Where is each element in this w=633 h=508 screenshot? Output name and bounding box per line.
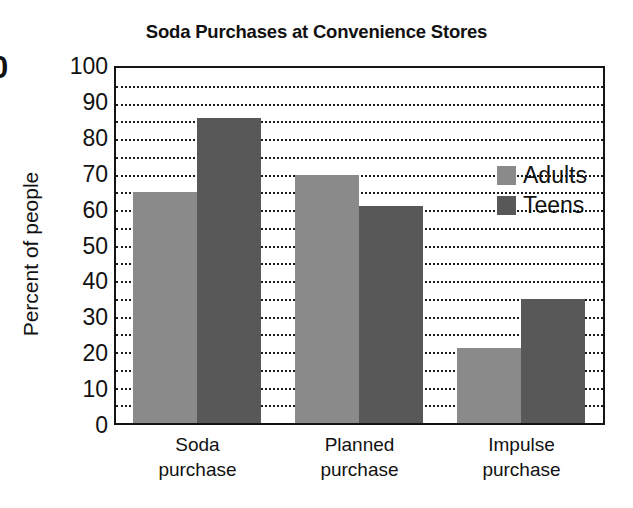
y-axis-tick-label: 40 [46, 270, 108, 293]
plot-area: AdultsTeens [114, 66, 605, 425]
y-axis-tick-label: 80 [46, 126, 108, 149]
legend-item-adults: Adults [497, 160, 605, 190]
x-axis-category-labels: SodapurchasePlannedpurchaseImpulsepurcha… [114, 432, 605, 492]
legend-swatch-icon [497, 166, 516, 185]
y-axis-tick-label: 100 [46, 55, 108, 78]
y-axis-tick-label: 10 [46, 378, 108, 401]
y-axis-tick-label: 20 [46, 342, 108, 365]
gridline [116, 86, 603, 88]
bar-teens-soda-purchase [197, 118, 261, 423]
legend-label: Adults [523, 164, 587, 187]
y-axis-tick-label: 70 [46, 162, 108, 185]
legend-item-teens: Teens [497, 190, 605, 220]
x-axis-category-label-line: Soda [117, 432, 279, 457]
bar-adults-planned-purchase [295, 175, 359, 424]
x-axis-category-label: Impulsepurchase [441, 432, 603, 482]
y-axis-tick-labels: 1009080706050403020100 [46, 66, 108, 425]
x-axis-category-label-line: purchase [279, 457, 441, 482]
x-axis-category-label-line: purchase [117, 457, 279, 482]
legend-label: Teens [523, 194, 584, 217]
x-axis-category-label-line: Impulse [441, 432, 603, 457]
gridline [116, 157, 603, 159]
gridline [116, 139, 603, 141]
x-axis-category-label-line: Planned [279, 432, 441, 457]
bar-teens-planned-purchase [359, 206, 423, 423]
y-axis-tick-label: 30 [46, 306, 108, 329]
chart-title: Soda Purchases at Convenience Stores [0, 21, 633, 43]
legend: AdultsTeens [497, 160, 605, 220]
bar-teens-impulse-purchase [521, 299, 585, 423]
bar-adults-impulse-purchase [457, 348, 521, 423]
gridline [116, 121, 603, 123]
y-axis-tick-label: 50 [46, 234, 108, 257]
x-axis-category-label: Sodapurchase [117, 432, 279, 482]
gridline [116, 104, 603, 106]
y-axis-tick-label: 0 [46, 414, 108, 437]
y-axis-title: Percent of people [19, 144, 43, 364]
cropped-edge-glyph: 0 [0, 52, 8, 83]
y-axis-tick-label: 90 [46, 90, 108, 113]
y-axis-tick-label: 60 [46, 198, 108, 221]
legend-swatch-icon [497, 196, 516, 215]
plot-inner [116, 68, 603, 423]
x-axis-category-label-line: purchase [441, 457, 603, 482]
x-axis-category-label: Plannedpurchase [279, 432, 441, 482]
bar-adults-soda-purchase [133, 192, 197, 423]
